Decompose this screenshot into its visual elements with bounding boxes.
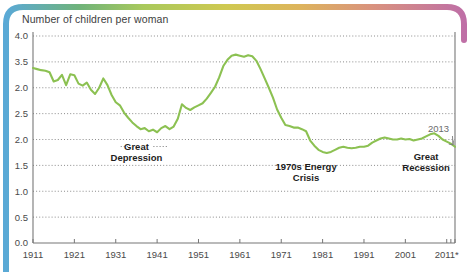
annotation-great-recession-line2: Recession — [402, 162, 450, 173]
x-tick-label: 1981 — [312, 249, 333, 260]
x-tick-label: 1911 — [23, 249, 43, 260]
y-tick-label: 1.0 — [15, 186, 28, 197]
x-tick-label: 1921 — [64, 249, 85, 260]
y-tick-label: 4.0 — [15, 30, 28, 41]
y-tick-label: 2.5 — [15, 108, 28, 119]
x-tick-label: 2001 — [395, 249, 416, 260]
chart-plot-area: 4.03.52.02.52.01.51.00.50.0 191119211931… — [0, 0, 470, 272]
x-tick-label: 1961 — [229, 249, 250, 260]
annotation-end-year-callout: 2013 — [428, 123, 449, 134]
y-tick-label: 1.5 — [15, 160, 28, 171]
y-tick-label: 3.5 — [15, 56, 28, 67]
y-tick-label: 2.0 — [15, 134, 28, 145]
y-axis-tick-labels: 4.03.52.02.52.01.51.00.50.0 — [15, 30, 28, 248]
y-tick-label: 2.0 — [15, 82, 28, 93]
x-tick-label: 1941 — [147, 249, 168, 260]
annotation-energy-crisis-line2: Crisis — [293, 172, 319, 183]
x-tick-label: 1991 — [353, 249, 374, 260]
chart-figure: Number of children per woman 4.03.52.02.… — [0, 0, 470, 272]
x-tick-label: 1931 — [105, 249, 126, 260]
series-line-total-fertility-rate — [33, 55, 455, 153]
chart-annotations: GreatDepression1970s EnergyCrisisGreatRe… — [111, 123, 454, 183]
x-tick-label: 2011* — [435, 249, 459, 260]
annotation-great-depression-line2: Depression — [111, 152, 163, 163]
gridlines-group — [33, 36, 455, 217]
x-axis-tick-labels: 1911192119311941195119611971198119912001… — [23, 249, 459, 260]
y-tick-label: 0.5 — [15, 212, 28, 223]
annotation-energy-crisis: 1970s Energy — [275, 161, 337, 172]
axis-lines — [33, 32, 455, 243]
data-series-line — [33, 55, 455, 153]
y-tick-label: 0.0 — [15, 237, 28, 248]
x-tick-label: 1971 — [271, 249, 292, 260]
annotation-great-recession: Great — [414, 151, 440, 162]
x-tick-label: 1951 — [188, 249, 209, 260]
